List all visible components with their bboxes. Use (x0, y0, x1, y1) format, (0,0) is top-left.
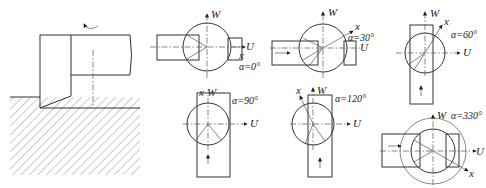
svg-text:x: x (238, 49, 244, 61)
svg-text:U: U (353, 117, 362, 129)
panel-a120: x W U α=120° (290, 84, 366, 177)
svg-text:U: U (250, 117, 259, 129)
setup-panel (10, 24, 140, 175)
svg-text:W: W (207, 86, 217, 98)
workpiece-hatch (10, 97, 140, 175)
svg-text:x: x (198, 86, 204, 98)
spindle (71, 35, 132, 75)
svg-text:x: x (354, 20, 360, 32)
rotation-arrow-icon (84, 24, 98, 29)
svg-text:U: U (463, 46, 472, 58)
panel-a30: W U x α=30° (270, 6, 374, 78)
svg-text:W: W (211, 8, 221, 20)
svg-text:α=30°: α=30° (348, 32, 374, 43)
svg-text:W: W (328, 6, 338, 18)
svg-text:W: W (317, 84, 327, 96)
svg-text:α=120°: α=120° (335, 93, 366, 104)
panel-a0: W U x α=0° (150, 8, 260, 78)
svg-text:U: U (246, 40, 255, 52)
svg-text:x: x (295, 84, 301, 96)
svg-text:α=330°: α=330° (451, 110, 482, 121)
svg-text:W: W (437, 109, 447, 121)
svg-text:x: x (468, 167, 474, 179)
panel-a60: W U x α=60° (396, 7, 477, 104)
panel-a330: W U x α=330° (380, 109, 485, 185)
svg-text:α=60°: α=60° (451, 29, 477, 40)
svg-text:α=90°: α=90° (232, 95, 258, 106)
milling-diagram: W U x α=0° W U x α=30° W U x α=60° (0, 0, 486, 188)
svg-text:α=0°: α=0° (239, 61, 260, 72)
panel-a90: x W U α=90° (183, 86, 259, 177)
svg-text:W: W (430, 7, 440, 19)
svg-text:U: U (476, 145, 485, 157)
svg-text:x: x (443, 15, 449, 27)
